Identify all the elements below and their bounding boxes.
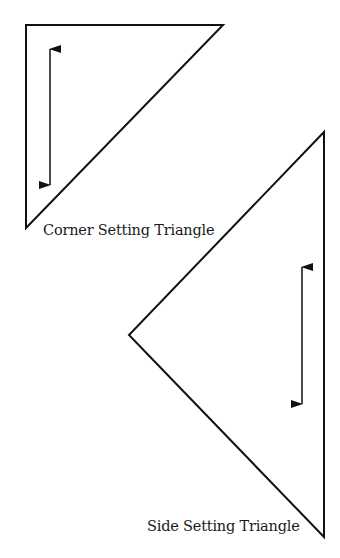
side-setting-triangle-label: Side Setting Triangle [147,518,300,534]
side-triangle-outline [129,132,324,537]
side-setting-triangle [129,132,324,537]
corner-triangle-outline [26,25,223,228]
diagram-canvas [0,0,340,558]
corner-setting-triangle [26,25,223,228]
corner-setting-triangle-label: Corner Setting Triangle [43,222,214,238]
